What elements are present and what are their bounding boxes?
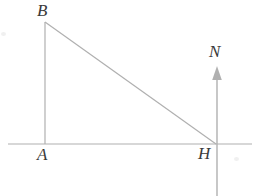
scan-artifact-right xyxy=(234,157,239,161)
figure-canvas xyxy=(0,0,259,196)
geometry-figure: B A H N xyxy=(0,0,259,196)
vertex-label-a: A xyxy=(37,146,47,163)
segment-bh xyxy=(45,22,216,144)
vertex-label-b: B xyxy=(37,2,47,19)
scan-artifact-left xyxy=(1,32,6,36)
up-arrow-icon xyxy=(212,66,222,80)
vertex-label-n: N xyxy=(209,43,220,60)
vertex-label-h: H xyxy=(198,145,210,162)
